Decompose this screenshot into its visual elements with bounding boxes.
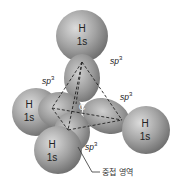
sp3-label-right: sp3: [120, 91, 133, 102]
sp3-label-bottom: sp3: [85, 141, 98, 152]
svg-text:1s: 1s: [140, 131, 151, 142]
h-bottom-sphere: [34, 126, 82, 174]
sp3-label-top: sp3: [110, 55, 123, 66]
svg-text:H: H: [25, 99, 32, 110]
diagram-canvas: H 1s H 1s H 1s H 1s C sp3 sp3 sp3 sp3 중첩…: [0, 0, 183, 189]
svg-text:1s: 1s: [77, 36, 88, 47]
svg-text:1s: 1s: [47, 152, 58, 163]
svg-text:H: H: [48, 139, 55, 150]
methane-orbital-diagram: H 1s H 1s H 1s H 1s C sp3 sp3 sp3 sp3 중첩…: [0, 0, 183, 189]
sp3-label-left: sp3: [42, 75, 55, 86]
overlap-region-label: 중첩 영역: [102, 167, 133, 177]
svg-text:H: H: [141, 118, 148, 129]
carbon-label: C: [79, 102, 86, 112]
svg-text:H: H: [78, 23, 85, 34]
h-right-sphere: [122, 106, 170, 154]
svg-text:1s: 1s: [24, 112, 35, 123]
